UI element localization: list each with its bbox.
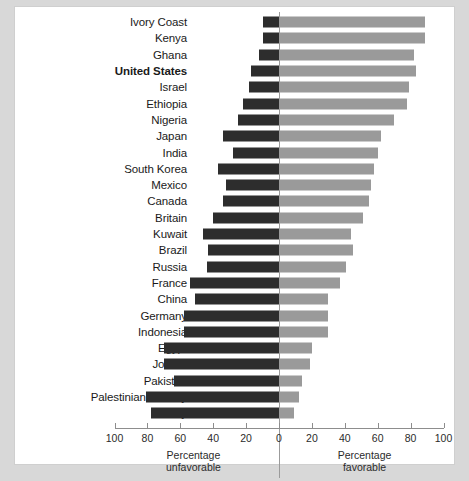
bar-unfavorable — [251, 66, 279, 77]
bar-favorable — [279, 163, 374, 174]
bar-unfavorable — [203, 229, 279, 240]
row-label-ghana: Ghana — [153, 49, 187, 61]
bar-unfavorable — [263, 17, 279, 28]
bar-unfavorable — [146, 392, 279, 403]
bar-favorable — [279, 17, 425, 28]
row-label-ivory-coast: Ivory Coast — [130, 16, 187, 28]
axis-tick-label: 40 — [207, 432, 219, 444]
chart-row: United States — [15, 63, 454, 79]
caption-unfavorable: Percentageunfavorable — [166, 449, 221, 473]
axis-tick — [378, 423, 379, 428]
bar-unfavorable — [190, 277, 279, 288]
bar-unfavorable — [233, 147, 279, 158]
axis-tick — [345, 423, 346, 428]
chart-row: India — [15, 144, 454, 160]
row-label-kuwait: Kuwait — [153, 228, 187, 240]
axis-tick-label: 100 — [435, 432, 453, 444]
bar-favorable — [279, 277, 340, 288]
axis-tick-label: 20 — [306, 432, 318, 444]
chart-row: Jordan — [15, 356, 454, 372]
axis-tick-label: 60 — [372, 432, 384, 444]
chart-row: Israel — [15, 79, 454, 95]
chart-row: Indonesia — [15, 324, 454, 340]
chart-row: Turkey — [15, 405, 454, 421]
row-label-kenya: Kenya — [155, 32, 187, 44]
bar-favorable — [279, 196, 369, 207]
chart-panel: Ivory CoastKenyaGhanaUnited StatesIsrael… — [14, 6, 455, 465]
chart-row: Nigeria — [15, 112, 454, 128]
bar-favorable — [279, 212, 363, 223]
row-label-israel: Israel — [159, 81, 187, 93]
bar-favorable — [279, 359, 310, 370]
row-label-japan: Japan — [156, 130, 187, 142]
bar-favorable — [279, 131, 381, 142]
chart-row: Pakistan — [15, 373, 454, 389]
chart-row: Ghana — [15, 47, 454, 63]
row-label-south-korea: South Korea — [124, 163, 187, 175]
bar-unfavorable — [195, 294, 279, 305]
bar-unfavorable — [263, 33, 279, 44]
chart-row: Japan — [15, 128, 454, 144]
bar-favorable — [279, 245, 353, 256]
bar-unfavorable — [164, 343, 279, 354]
x-axis-line — [115, 428, 444, 429]
axis-tick — [411, 423, 412, 428]
row-label-russia: Russia — [152, 261, 187, 273]
bar-unfavorable — [151, 408, 279, 419]
row-label-china: China — [157, 293, 187, 305]
chart-row: Egypt — [15, 340, 454, 356]
bar-favorable — [279, 375, 302, 386]
chart-row: Ivory Coast — [15, 14, 454, 30]
caption-unfavorable-line1: Percentage — [166, 449, 221, 461]
axis-tick — [312, 423, 313, 428]
bar-favorable — [279, 66, 416, 77]
chart-row: Kenya — [15, 30, 454, 46]
chart-row: France — [15, 275, 454, 291]
row-label-ethiopia: Ethiopia — [146, 98, 187, 110]
row-label-brazil: Brazil — [159, 244, 187, 256]
bar-favorable — [279, 310, 328, 321]
bar-favorable — [279, 343, 312, 354]
chart-row: China — [15, 291, 454, 307]
axis-tick — [246, 423, 247, 428]
axis-tick — [279, 423, 280, 428]
caption-favorable: Percentagefavorable — [338, 449, 392, 473]
axis-tick — [115, 423, 116, 428]
axis-tick-label: 20 — [240, 432, 252, 444]
axis-tick — [444, 423, 445, 428]
bar-favorable — [279, 294, 328, 305]
bar-favorable — [279, 33, 425, 44]
axis-tick-label: 80 — [405, 432, 417, 444]
bar-unfavorable — [184, 310, 279, 321]
row-label-canada: Canada — [147, 195, 187, 207]
row-label-united-states: United States — [115, 65, 187, 77]
caption-favorable-line1: Percentage — [338, 449, 392, 461]
row-label-mexico: Mexico — [151, 179, 187, 191]
bar-favorable — [279, 98, 407, 109]
bar-favorable — [279, 392, 299, 403]
diverging-bar-plot: Ivory CoastKenyaGhanaUnited StatesIsrael… — [15, 7, 454, 464]
chart-row: Russia — [15, 259, 454, 275]
row-label-nigeria: Nigeria — [151, 114, 187, 126]
bar-unfavorable — [213, 212, 279, 223]
axis-tick-label: 40 — [339, 432, 351, 444]
caption-unfavorable-line2: unfavorable — [166, 461, 221, 473]
axis-tick — [180, 423, 181, 428]
bar-favorable — [279, 229, 351, 240]
chart-row: Mexico — [15, 177, 454, 193]
bar-unfavorable — [184, 326, 279, 337]
bar-unfavorable — [223, 196, 279, 207]
row-label-india: India — [163, 147, 187, 159]
axis-tick-label: 0 — [276, 432, 282, 444]
chart-row: Canada — [15, 193, 454, 209]
bar-unfavorable — [238, 114, 279, 125]
row-label-britain: Britain — [155, 212, 187, 224]
bar-unfavorable — [226, 180, 279, 191]
row-label-germany: Germany — [140, 310, 187, 322]
bar-favorable — [279, 49, 414, 60]
axis-tick — [213, 423, 214, 428]
chart-row: Ethiopia — [15, 96, 454, 112]
bar-favorable — [279, 326, 328, 337]
bar-favorable — [279, 147, 378, 158]
bar-favorable — [279, 114, 394, 125]
